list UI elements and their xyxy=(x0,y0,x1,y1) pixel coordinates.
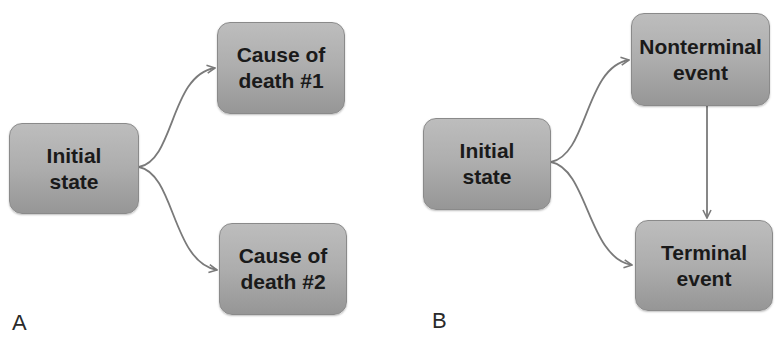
panel-label-a: A xyxy=(12,310,27,336)
node-b-terminal-event: Terminal event xyxy=(635,220,773,311)
edge-b-initial-to-terminal xyxy=(551,162,632,265)
node-label: Initial state xyxy=(460,138,515,190)
node-a-cause-of-death-2: Cause of death #2 xyxy=(219,223,347,315)
edge-a-initial-to-cause2 xyxy=(139,167,217,270)
node-label: Initial state xyxy=(47,143,102,195)
edge-b-initial-to-nonterminal xyxy=(551,60,629,162)
node-label: Cause of death #1 xyxy=(237,42,326,94)
node-a-cause-of-death-1: Cause of death #1 xyxy=(217,22,345,114)
node-b-initial-state: Initial state xyxy=(423,118,551,210)
node-label: Cause of death #2 xyxy=(239,243,328,295)
node-label: Nonterminal event xyxy=(639,34,762,86)
panel-label-b: B xyxy=(432,308,447,334)
node-b-nonterminal-event: Nonterminal event xyxy=(631,13,770,106)
node-a-initial-state: Initial state xyxy=(9,123,139,214)
node-label: Terminal event xyxy=(661,240,747,292)
edge-a-initial-to-cause1 xyxy=(139,68,215,167)
